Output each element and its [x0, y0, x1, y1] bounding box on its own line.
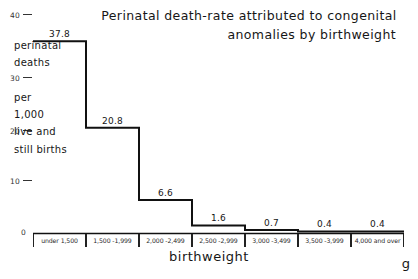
x-category-5: 3,500 -3,999: [298, 234, 351, 247]
value-label-5: 0.4: [298, 219, 351, 229]
x-category-1: 1,500 -1,999: [86, 234, 139, 247]
value-label-4: 0.7: [245, 218, 298, 228]
x-category-6: 4,000 and over: [351, 234, 404, 247]
x-category-3: 2,500 -2,999: [192, 234, 245, 247]
x-axis-title: birthweight: [0, 249, 418, 264]
x-axis-unit: g: [402, 256, 410, 271]
value-label-0: 37.8: [33, 29, 86, 39]
value-label-3: 1.6: [192, 213, 245, 223]
chart-container: Perinatal death-rate attributed to conge…: [0, 0, 418, 279]
value-label-2: 6.6: [139, 188, 192, 198]
step-line: [33, 41, 404, 231]
x-category-2: 2,000 -2,499: [139, 234, 192, 247]
value-label-1: 20.8: [86, 116, 139, 126]
x-category-4: 3,000 -3,499: [245, 234, 298, 247]
value-label-6: 0.4: [351, 219, 404, 229]
x-category-0: under 1,500: [33, 234, 86, 247]
